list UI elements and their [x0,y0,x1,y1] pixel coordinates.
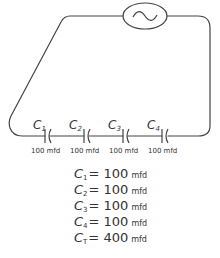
equation-c4: C4= 100mfd [74,214,147,230]
capacitor-label: C4 [147,118,160,133]
equation-ct: CT= 400mfd [74,230,147,246]
capacitor-value: 100 mfd [31,147,60,155]
equation-c3: C3= 100mfd [74,198,147,214]
capacitor-label: C1 [33,118,46,133]
wire-top-right [167,16,210,136]
wire-top-left [9,16,123,136]
capacitor-value: 100 mfd [70,147,99,155]
equation-c1: C1= 100mfd [74,166,147,182]
ac-source-icon [123,3,167,29]
capacitor-value: 100 mfd [109,147,138,155]
capacitor-label: C3 [108,118,121,133]
capacitor-value: 100 mfd [148,147,177,155]
capacitor-label: C2 [69,118,82,133]
capacitor-icon [162,129,168,143]
equation-list: C1= 100mfd C2= 100mfd C3= 100mfd C4= 100… [74,166,147,246]
equation-c2: C2= 100mfd [74,182,147,198]
circuit-diagram: C1 C2 C3 C4 100 mfd 100 mfd 100 mfd 100 … [0,0,220,258]
